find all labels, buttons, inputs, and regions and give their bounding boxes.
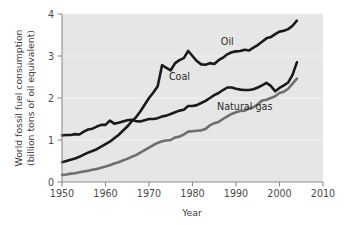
y-axis-title-line-2: (billion tons of oil equivalent) [25,30,36,166]
y-tick-label-0: 0 [48,177,54,188]
y-tick-label-2: 2 [48,93,54,104]
y-axis-title-line-1: World fossil fuel consumption [13,29,24,166]
x-tick-label-1960: 1960 [93,188,117,199]
x-tick-label-1950: 1950 [50,188,74,199]
chart-figure: 1950196019701980199020002010 01234 OilCo… [0,0,346,225]
y-tick-labels: 01234 [48,9,54,188]
y-tick-label-4: 4 [48,9,54,20]
line-chart: 1950196019701980199020002010 01234 OilCo… [0,0,346,225]
x-axis-title: Year [181,207,202,218]
series-label-coal: Coal [169,71,190,82]
x-tick-label-1970: 1970 [137,188,161,199]
series-label-oil: Oil [221,36,234,47]
series-label-natural-gas: Natural gas [217,101,272,112]
x-tick-labels: 1950196019701980199020002010 [50,188,335,199]
y-tick-label-1: 1 [48,135,54,146]
x-tick-label-2010: 2010 [311,188,335,199]
y-tick-label-3: 3 [48,51,54,62]
x-tick-label-1980: 1980 [180,188,204,199]
x-tick-label-1990: 1990 [224,188,248,199]
x-tick-label-2000: 2000 [267,188,291,199]
